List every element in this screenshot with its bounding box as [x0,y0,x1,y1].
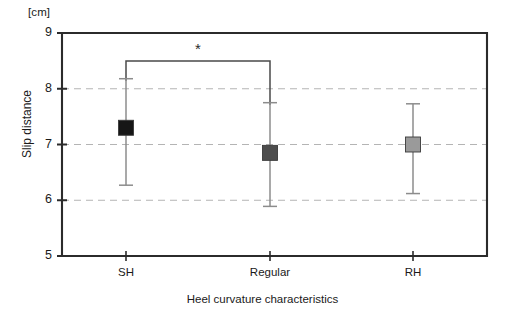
y-tick-label-5: 5 [28,248,52,262]
y-tick-label-8: 8 [28,81,52,95]
chart-figure: [cm] Slip distance Heel curvature charac… [0,0,509,316]
x-axis-title-text: Heel curvature characteristics [187,293,338,305]
y-tick-label-6: 6 [28,192,52,206]
x-tick-label-sh: SH [81,266,171,278]
marker-rh [406,137,421,152]
x-tick-label-rh: RH [368,266,458,278]
y-axis-unit-label: [cm] [28,6,50,18]
significance-asterisk: * [188,41,208,56]
significance-bracket [126,61,270,105]
x-axis-title: Heel curvature characteristics [0,293,509,305]
marker-sh [119,120,134,135]
x-tick-label-regular: Regular [225,266,315,278]
y-tick-label-7: 7 [28,137,52,151]
axis-ticks [57,33,413,261]
y-tick-label-9: 9 [28,25,52,39]
marker-regular [263,145,278,160]
bracket-path [126,61,270,105]
